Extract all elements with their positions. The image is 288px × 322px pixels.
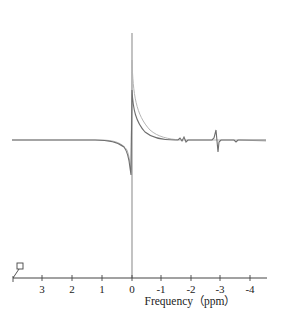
- tick-label: -4: [245, 283, 255, 295]
- tick-label: -1: [156, 283, 165, 295]
- tick-label: -2: [186, 283, 195, 295]
- spectrum-trace-secondary: [12, 60, 266, 170]
- x-axis-title: Frequency（ppm）: [145, 295, 236, 308]
- axis-break-icon: [13, 263, 23, 282]
- spectrum-trace: [12, 90, 266, 175]
- tick-label: 0: [129, 283, 135, 295]
- tick-label: 3: [39, 283, 45, 295]
- x-axis-tick-labels: 3 2 1 0 -1 -2 -3 -4: [39, 283, 255, 295]
- tick-label: 1: [99, 283, 105, 295]
- tick-label: 2: [69, 283, 75, 295]
- tick-label: -3: [215, 283, 225, 295]
- nmr-spectrum-chart: 3 2 1 0 -1 -2 -3 -4 Frequency（ppm）: [0, 0, 288, 322]
